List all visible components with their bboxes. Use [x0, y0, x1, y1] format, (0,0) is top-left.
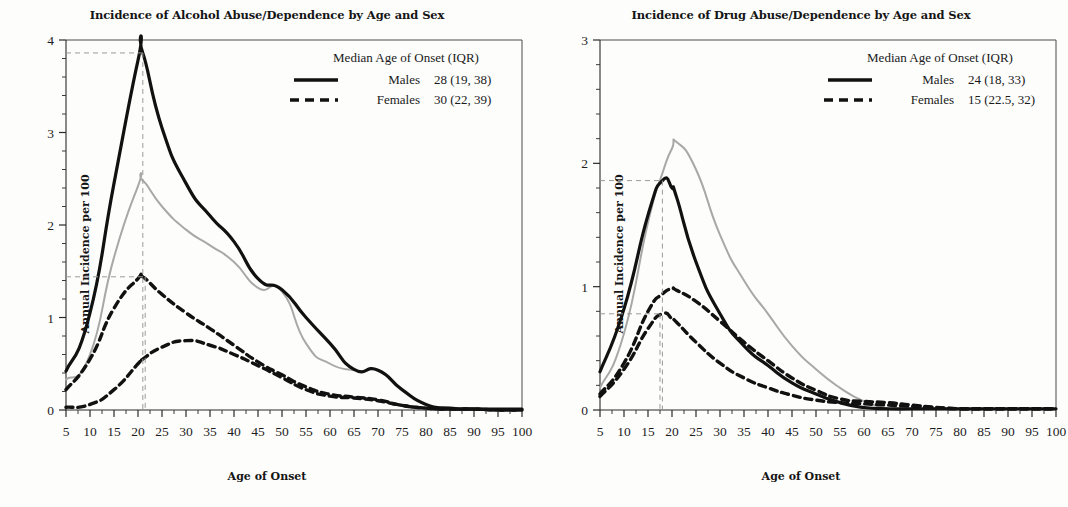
x-tick-label: 90: [467, 424, 481, 439]
x-tick-label: 55: [299, 424, 313, 439]
y-axis-ticks: 01234: [47, 33, 66, 418]
x-tick-label: 70: [905, 424, 919, 439]
series-line: [600, 313, 1056, 409]
x-axis-ticks: 5101520253035404550556065707580859095100: [63, 410, 533, 439]
legend-title: Median Age of Onset (IQR): [333, 50, 479, 65]
x-tick-label: 100: [1046, 424, 1067, 439]
y-tick-label: 0: [581, 403, 588, 418]
y-tick-label: 3: [581, 33, 588, 48]
x-tick-label: 25: [155, 424, 169, 439]
y-tick-label: 4: [47, 33, 54, 48]
x-tick-label: 10: [617, 424, 631, 439]
legend-item-value: 30 (22, 39): [434, 92, 491, 107]
x-tick-label: 100: [512, 424, 533, 439]
y-tick-label: 0: [47, 403, 54, 418]
x-tick-label: 65: [881, 424, 895, 439]
x-tick-label: 20: [665, 424, 679, 439]
y-axis-ticks: 0123: [581, 33, 600, 418]
x-tick-label: 30: [179, 424, 193, 439]
x-tick-label: 35: [737, 424, 751, 439]
x-tick-label: 5: [597, 424, 604, 439]
x-tick-label: 80: [419, 424, 433, 439]
series-line: [66, 273, 522, 410]
x-tick-label: 15: [641, 424, 655, 439]
y-tick-label: 1: [47, 311, 54, 326]
legend-item-label: Males: [922, 72, 954, 87]
x-tick-label: 60: [857, 424, 871, 439]
legend-item-value: 28 (19, 38): [434, 72, 491, 87]
x-tick-label: 30: [713, 424, 727, 439]
y-tick-label: 2: [581, 156, 588, 171]
chart-panel-drug: Incidence of Drug Abuse/Dependence by Ag…: [534, 0, 1068, 507]
x-tick-label: 80: [953, 424, 967, 439]
plot-area: 0123510152025303540455055606570758085909…: [534, 0, 1068, 507]
series-line: [600, 178, 1056, 409]
x-tick-label: 15: [107, 424, 121, 439]
x-tick-label: 70: [371, 424, 385, 439]
y-tick-label: 1: [581, 280, 588, 295]
x-tick-label: 40: [227, 424, 241, 439]
x-tick-label: 40: [761, 424, 775, 439]
legend-item-label: Females: [377, 92, 420, 107]
x-tick-label: 50: [809, 424, 823, 439]
chart-panel-alcohol: Incidence of Alcohol Abuse/Dependence by…: [0, 0, 534, 507]
x-tick-label: 95: [1025, 424, 1039, 439]
legend-item-value: 24 (18, 33): [968, 72, 1025, 87]
x-tick-label: 85: [443, 424, 457, 439]
figure-root: Incidence of Alcohol Abuse/Dependence by…: [0, 0, 1068, 507]
x-axis-ticks: 5101520253035404550556065707580859095100: [597, 410, 1067, 439]
x-tick-label: 10: [83, 424, 97, 439]
median-guide-lines: [600, 181, 662, 410]
x-tick-label: 25: [689, 424, 703, 439]
y-tick-label: 2: [47, 218, 54, 233]
series-line: [600, 288, 1056, 409]
plot-area: 0123451015202530354045505560657075808590…: [0, 0, 534, 507]
data-series-group: [600, 139, 1056, 408]
x-tick-label: 50: [275, 424, 289, 439]
x-tick-label: 60: [323, 424, 337, 439]
x-tick-label: 75: [395, 424, 409, 439]
legend-item-value: 15 (22.5, 32): [968, 92, 1035, 107]
x-tick-label: 45: [251, 424, 265, 439]
x-tick-label: 90: [1001, 424, 1015, 439]
x-tick-label: 85: [977, 424, 991, 439]
series-line: [66, 341, 522, 411]
x-tick-label: 55: [833, 424, 847, 439]
y-tick-label: 3: [47, 126, 54, 141]
x-tick-label: 35: [203, 424, 217, 439]
legend-title: Median Age of Onset (IQR): [867, 50, 1013, 65]
x-tick-label: 20: [131, 424, 145, 439]
legend: Median Age of Onset (IQR)Males28 (19, 38…: [290, 50, 491, 107]
x-tick-label: 45: [785, 424, 799, 439]
x-tick-label: 75: [929, 424, 943, 439]
series-line: [600, 139, 888, 408]
legend-item-label: Males: [388, 72, 420, 87]
legend-item-label: Females: [911, 92, 954, 107]
x-tick-label: 5: [63, 424, 70, 439]
legend: Median Age of Onset (IQR)Males24 (18, 33…: [824, 50, 1035, 107]
x-tick-label: 65: [347, 424, 361, 439]
x-tick-label: 95: [491, 424, 505, 439]
